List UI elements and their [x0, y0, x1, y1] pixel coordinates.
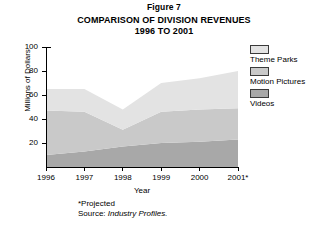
- legend-swatch-icon: [250, 89, 269, 98]
- x-tick-label: 1996: [26, 174, 66, 182]
- y-tick-label: 60: [12, 91, 38, 99]
- stacked-areas-group: [46, 71, 238, 167]
- footnote-source: Source: Industry Profiles.: [78, 209, 167, 219]
- chart-legend: Theme ParksMotion PicturesVideos: [250, 45, 328, 111]
- footnote-projected: *Projected: [78, 199, 167, 209]
- figure-container: Figure 7 COMPARISON OF DIVISION REVENUES…: [0, 0, 328, 239]
- footnote-source-title: Industry Profiles.: [108, 209, 168, 218]
- footnote-source-prefix: Source:: [78, 209, 108, 218]
- y-tick-label: 40: [12, 115, 38, 123]
- y-tick-label: 100: [12, 43, 38, 51]
- x-tick-label: 2000: [180, 174, 220, 182]
- x-tick-label: 1997: [64, 174, 104, 182]
- legend-swatch-icon: [250, 45, 269, 54]
- x-tick-label: 1998: [103, 174, 143, 182]
- legend-label: Motion Pictures: [250, 77, 328, 86]
- footnotes-block: *Projected Source: Industry Profiles.: [78, 199, 167, 219]
- legend-label: Theme Parks: [250, 55, 328, 64]
- x-tick-label: 2001*: [218, 174, 258, 182]
- x-tick-label: 1999: [141, 174, 181, 182]
- legend-entry: Motion Pictures: [250, 67, 328, 86]
- y-tick-label: 20: [12, 139, 38, 147]
- y-tick-label: 80: [12, 67, 38, 75]
- legend-entry: Videos: [250, 89, 328, 108]
- legend-label: Videos: [250, 99, 328, 108]
- x-axis-title: Year: [46, 186, 238, 195]
- legend-swatch-icon: [250, 67, 269, 76]
- legend-entry: Theme Parks: [250, 45, 328, 64]
